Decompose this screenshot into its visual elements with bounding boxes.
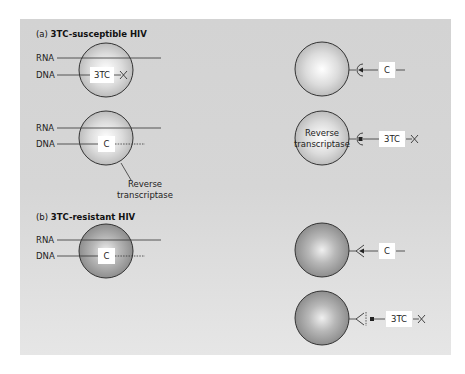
leader-line — [121, 163, 131, 180]
mutant-reverse-transcriptase-sphere — [295, 223, 349, 277]
rna-label: RNA — [36, 123, 54, 133]
rna-label: RNA — [36, 53, 54, 63]
mutant-reverse-transcriptase-sphere — [295, 291, 349, 345]
3tc-square-icon — [370, 317, 374, 321]
chain-terminated-x-icon — [411, 135, 418, 143]
arrowhead-icon — [358, 68, 363, 73]
c-label: C — [104, 139, 110, 149]
3tc-label: 3TC — [391, 314, 407, 324]
dna-label: DNA — [36, 70, 55, 80]
reverse-transcriptase-sphere — [295, 42, 349, 96]
dna-label: DNA — [36, 251, 55, 261]
susceptible-complex-3tc: RNA DNA 3TC — [36, 43, 161, 97]
reverse-transcriptase-label-2: transcriptase — [117, 190, 173, 200]
reverse-transcriptase-label-1: Reverse — [128, 179, 162, 189]
c-label: C — [384, 246, 390, 256]
chain-terminated-x-icon — [418, 315, 425, 323]
diagram-canvas: (a) 3TC-susceptible HIV RNA DNA 3TC RNA … — [0, 0, 465, 374]
reverse-transcriptase-label-1: Reverse — [305, 128, 339, 138]
altered-binding-pocket-icon — [356, 313, 364, 325]
arrowhead-icon — [359, 249, 364, 254]
bound-3tc-square-icon — [359, 137, 363, 141]
susceptible-complex-c: RNA DNA C Reverse transcriptase — [36, 111, 173, 200]
susceptible-binding-c: C — [295, 42, 405, 96]
panel-b-title: (b) 3TC-resistant HIV — [36, 212, 136, 222]
susceptible-binding-3tc: Reverse transcriptase 3TC — [294, 111, 418, 165]
rna-label: RNA — [36, 235, 54, 245]
panel-a-title: (a) 3TC-susceptible HIV — [36, 29, 147, 39]
resistant-binding-c: C — [295, 223, 405, 277]
3tc-label: 3TC — [94, 70, 110, 80]
reverse-transcriptase-label-2: transcriptase — [294, 139, 350, 149]
c-label: C — [384, 65, 390, 75]
resistant-complex-c: RNA DNA C — [36, 224, 161, 278]
3tc-label: 3TC — [384, 134, 400, 144]
dna-label: DNA — [36, 139, 55, 149]
c-label: C — [104, 251, 110, 261]
reverse-transcriptase-sphere — [295, 111, 349, 165]
resistant-blocked-3tc: 3TC — [295, 291, 425, 345]
